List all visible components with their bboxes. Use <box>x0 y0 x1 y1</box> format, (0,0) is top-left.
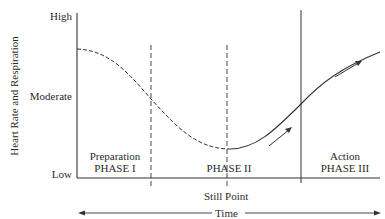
still-point-label: Still Point <box>204 190 248 202</box>
phase-3-name: Action <box>310 150 380 162</box>
curve-dashed-segment <box>77 49 228 149</box>
phase-3-label: Action PHASE III <box>310 150 380 174</box>
curve-solid-segment <box>228 52 380 149</box>
phase-1-label: Preparation PHASE I <box>82 150 148 174</box>
y-tick-moderate: Moderate <box>2 90 72 102</box>
diagram-canvas <box>0 0 385 219</box>
y-tick-high: High <box>2 10 72 22</box>
phase-1-number: PHASE I <box>82 162 148 174</box>
phase-3-number: PHASE III <box>310 162 380 174</box>
phase-1-name: Preparation <box>82 150 148 162</box>
direction-arrow-1 <box>269 127 292 146</box>
phase-2-label: PHASE II <box>196 162 262 174</box>
x-axis-label: Time <box>215 207 238 219</box>
phase-2-number: PHASE II <box>196 162 262 174</box>
y-tick-low: Low <box>2 168 72 180</box>
direction-arrow-2 <box>335 61 362 77</box>
